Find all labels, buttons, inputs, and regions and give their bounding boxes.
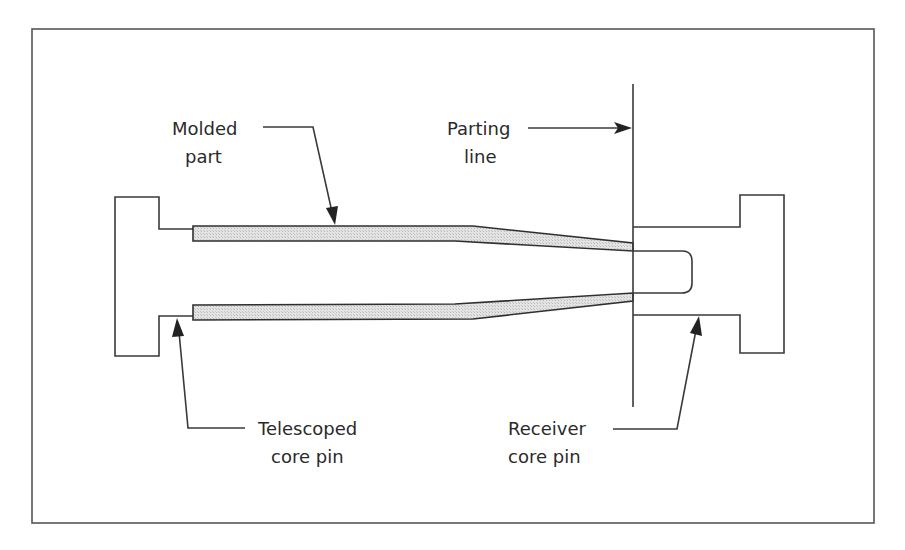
- molded-part-top-wall: [193, 226, 633, 251]
- molded-part-leader: [263, 127, 332, 212]
- telescoped-core-pin-label-line1: Telescoped: [257, 418, 357, 439]
- figure-frame: [32, 29, 874, 523]
- receiver-core-pin-label-line1: Receiver: [508, 418, 586, 439]
- parting-line-label-line2: line: [464, 146, 496, 167]
- diagram-canvas: Molded part Parting line Telescoped core…: [0, 0, 905, 550]
- receiver-core-pin-leader: [613, 330, 696, 429]
- receiver-core-pin-arrowhead: [690, 316, 702, 336]
- receiver-core-pin-body: [633, 195, 784, 353]
- receiver-core-pin-label-line2: core pin: [508, 446, 581, 467]
- telescoped-core-pin-nose: [633, 251, 692, 293]
- parting-line-label-line1: Parting: [447, 118, 510, 139]
- telescoped-core-pin-leader: [179, 332, 245, 428]
- molded-part-arrowhead: [326, 206, 338, 225]
- molded-part-label-line2: part: [185, 146, 222, 167]
- telescoped-core-pin-label-line2: core pin: [271, 446, 344, 467]
- telescoped-core-pin-arrowhead: [172, 318, 184, 337]
- diagram-svg: Molded part Parting line Telescoped core…: [0, 0, 905, 550]
- molded-part-label-line1: Molded: [172, 118, 237, 139]
- molded-part-bottom-wall: [193, 293, 633, 320]
